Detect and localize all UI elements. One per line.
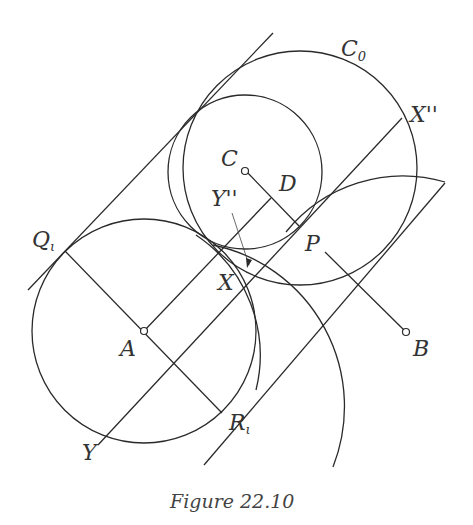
label-b: B [412, 336, 429, 361]
point-c [242, 168, 249, 175]
segment-p-b [325, 252, 406, 332]
arrow-ypp-to-x [232, 213, 249, 265]
label-d: D [278, 171, 297, 196]
label-q: Qι [32, 227, 55, 254]
label-ypp: Y'' [211, 186, 238, 211]
circle-c0 [183, 51, 417, 285]
arc-through-p [286, 176, 445, 232]
label-xpp: X'' [408, 102, 438, 127]
label-c: C [221, 146, 238, 171]
label-y: Y [82, 440, 99, 465]
label-x: X [216, 270, 235, 295]
segment-y-xpp [98, 118, 402, 445]
point-b [403, 329, 410, 336]
point-a [141, 328, 148, 335]
geometry-figure: C0 X'' C D Y'' Qι P X A B Y Rι Figure 22… [0, 0, 473, 525]
arrow-head-icon [246, 258, 252, 268]
label-a: A [118, 336, 136, 361]
label-p: P [304, 231, 321, 256]
segment-a-d [144, 198, 271, 331]
figure-caption: Figure 22.10 [169, 490, 294, 512]
label-c0: C0 [341, 36, 366, 64]
